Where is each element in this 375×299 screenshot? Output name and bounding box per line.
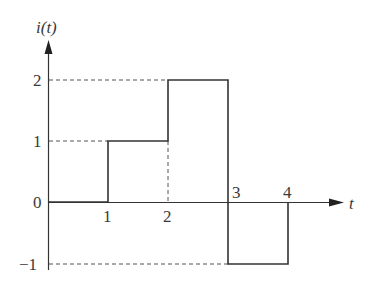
step-function-chart: i(t) t 2 1 0 −1 1 2 3 4	[0, 0, 375, 299]
guide-lines	[49, 80, 228, 264]
y-tick-2: 2	[33, 71, 42, 90]
y-axis-arrow-icon	[45, 40, 53, 54]
x-tick-3: 3	[232, 183, 241, 202]
y-tick-1: 1	[33, 132, 42, 151]
y-tick-0: 0	[33, 193, 42, 212]
axes	[48, 52, 332, 270]
y-axis-label: i(t)	[36, 18, 57, 37]
x-tick-1: 1	[103, 207, 112, 226]
x-tick-4: 4	[283, 183, 292, 202]
x-tick-2: 2	[163, 207, 172, 226]
x-axis-label: t	[349, 194, 355, 213]
t-axis-arrow-icon	[329, 199, 344, 207]
y-tick-neg1: −1	[19, 255, 37, 274]
